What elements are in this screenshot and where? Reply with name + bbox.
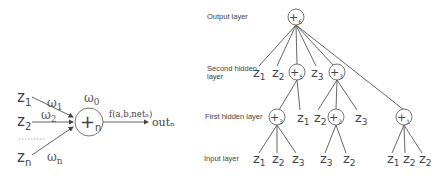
first-hidden-z2: z2 [314,110,327,127]
output-label: outₙ [152,116,175,129]
first-hidden-node-1: +1 [396,109,412,125]
first-hidden-node-2: +2 [328,109,344,125]
second-hidden-node-3: +3 [329,64,345,80]
output-node: +6 [288,9,304,25]
diagram-canvas: z1 z2 zn ω1 ω2 ωn ω0 +n f(a,b,netₙ) outₙ… [0,0,443,176]
input-z2-a: z2 [272,151,285,168]
neuron-diagram: z1 z2 zn ω1 ω2 ωn ω0 +n f(a,b,netₙ) outₙ [17,88,175,168]
input-z1-a: z1 [253,151,266,168]
input-z2-d: z2 [419,151,432,168]
neuron-input-zn: zn [17,148,31,168]
layer-label-first-hidden: First hidden layer [205,112,263,121]
activation-function-label: f(a,b,netₙ) [109,109,152,119]
tree-diagram: Output layer Second hidden layer First h… [204,9,432,168]
weight-wn: ωn [47,150,63,166]
edges-second-hidden [279,80,357,110]
input-z2-b: z2 [343,151,356,168]
first-hidden-z1: z1 [297,110,310,127]
layer-label-output: Output layer [207,12,248,21]
second-hidden-z3: z3 [311,65,324,82]
input-z3-a: z3 [292,151,305,168]
weight-w2: ω2 [41,108,57,124]
input-z1-c: z1 [387,151,400,168]
bias-w0: ω0 [84,91,100,107]
second-hidden-z2: z2 [272,65,285,82]
second-hidden-z1: z1 [253,65,266,82]
neuron-input-z1: z1 [17,88,31,108]
edges-first-hidden [259,125,422,153]
input-z2-c: z2 [403,151,416,168]
second-hidden-node-5: +5 [289,64,305,80]
layer-label-second-hidden-2: layer [207,72,224,81]
first-hidden-z3: z3 [355,110,368,127]
layer-label-input: Input layer [204,154,240,163]
input-z3-b: z3 [320,151,333,168]
first-hidden-node-3: +3 [269,109,285,125]
neuron-input-z2: z2 [17,112,31,132]
